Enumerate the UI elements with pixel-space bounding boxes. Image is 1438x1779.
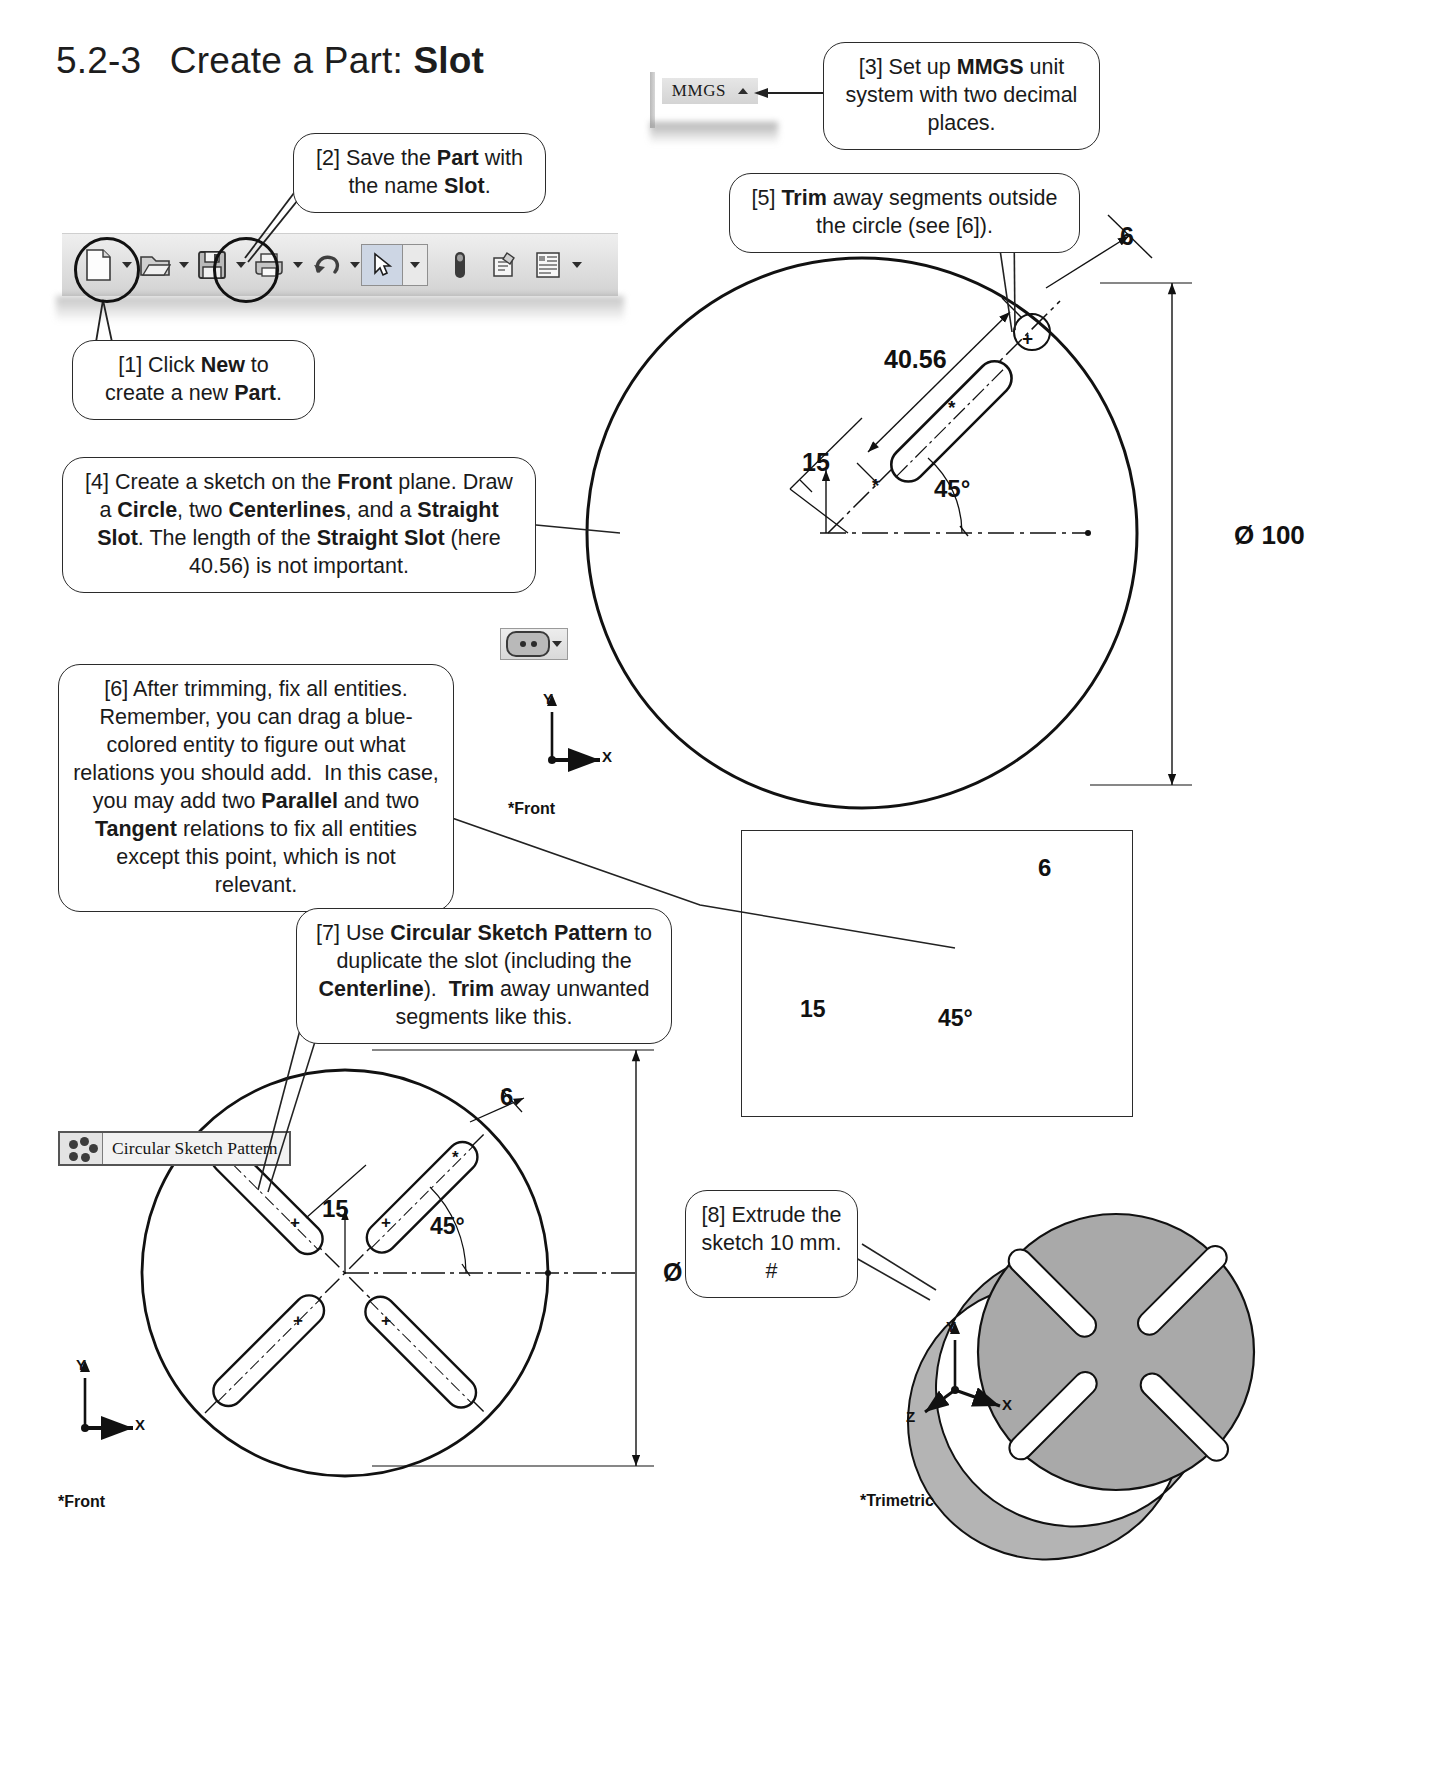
tutorial-page: 5.2-3 Create a Part: Slot [2] Save the P…	[0, 0, 1438, 1779]
callout-6: [6] After trimming, fix all entities. Re…	[58, 664, 454, 912]
callout-5: [5] Trim away segments outside the circl…	[729, 173, 1080, 253]
callout-3-text: [3] Set up MMGS unit system with two dec…	[846, 55, 1078, 135]
callout-4-text: [4] Create a sketch on the Front plane. …	[85, 470, 513, 578]
callout-3: [3] Set up MMGS unit system with two dec…	[823, 42, 1100, 150]
callout-2: [2] Save the Part with the name Slot.	[293, 133, 546, 213]
save-button-highlight	[213, 237, 279, 303]
callout-7: [7] Use Circular Sketch Pattern to dupli…	[296, 908, 672, 1044]
callout-6-text: [6] After trimming, fix all entities. Re…	[73, 677, 439, 897]
callout-7-text: [7] Use Circular Sketch Pattern to dupli…	[316, 921, 652, 1029]
callout-1-text: [1] Click New to create a new Part.	[105, 353, 282, 405]
callout-4: [4] Create a sketch on the Front plane. …	[62, 457, 536, 593]
callout-8: [8] Extrude the sketch 10 mm. #	[685, 1190, 858, 1298]
new-button-highlight	[74, 237, 140, 303]
callout-1: [1] Click New to create a new Part.	[72, 340, 315, 420]
callout-2-text: [2] Save the Part with the name Slot.	[316, 146, 523, 198]
callout-8-text: [8] Extrude the sketch 10 mm. #	[702, 1203, 842, 1283]
callout-5-text: [5] Trim away segments outside the circl…	[752, 186, 1058, 238]
